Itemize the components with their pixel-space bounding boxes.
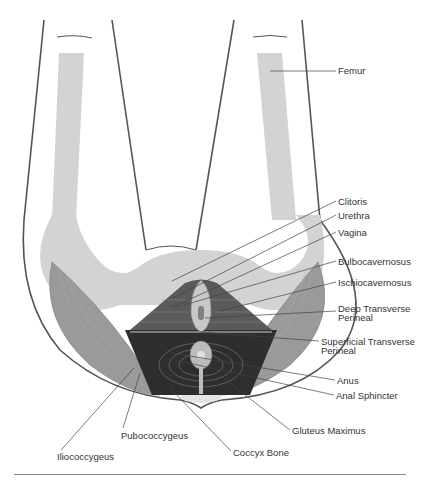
label-urethra: Urethra — [338, 211, 370, 221]
label-anal-sphincter: Anal Sphincter — [336, 391, 398, 401]
label-clitoris: Clitoris — [338, 197, 367, 207]
label-ischiocavernosus: Ischiocavernosus — [338, 278, 411, 288]
label-iliococcygeus: Iliococcygeus — [57, 452, 114, 462]
label-gluteus-maximus: Gluteus Maximus — [292, 426, 365, 436]
label-anus: Anus — [337, 376, 359, 386]
label-coccyx-bone: Coccyx Bone — [233, 448, 289, 458]
label-deep-transverse-perineal-line2: Perineal — [338, 313, 373, 323]
label-vagina: Vagina — [338, 228, 367, 238]
label-bulbocavernosus: Bulbocavernosus — [338, 257, 411, 267]
label-superficial-transverse-perineal-line2: Perineal — [321, 346, 356, 356]
label-pubococcygeus: Pubococcygeus — [121, 431, 188, 441]
label-femur: Femur — [338, 66, 365, 76]
bottom-divider — [14, 474, 406, 475]
